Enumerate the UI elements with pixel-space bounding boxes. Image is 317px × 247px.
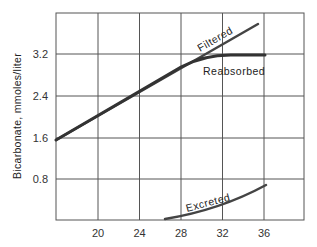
y-tick: 0.8 xyxy=(33,173,48,185)
x-tick: 32 xyxy=(216,227,228,239)
x-tick: 20 xyxy=(92,227,104,239)
y-axis-label: Bicarbonate, mmoles/liter xyxy=(11,53,23,179)
x-tick: 28 xyxy=(175,227,187,239)
label-reabsorbed: Reabsorbed xyxy=(203,65,265,77)
y-tick: 3.2 xyxy=(33,48,48,60)
plot-frame xyxy=(56,13,304,220)
x-tick: 36 xyxy=(258,227,270,239)
y-tick: 1.6 xyxy=(33,132,48,144)
x-axis-ticks: 20 24 28 32 36 xyxy=(92,227,270,239)
x-tick: 24 xyxy=(133,227,145,239)
grid xyxy=(56,13,304,220)
y-axis-ticks: 3.2 2.4 1.6 0.8 xyxy=(33,48,48,185)
y-tick: 2.4 xyxy=(33,90,48,102)
chart: 3.2 2.4 1.6 0.8 20 24 28 32 36 Bicarbona… xyxy=(0,0,317,247)
